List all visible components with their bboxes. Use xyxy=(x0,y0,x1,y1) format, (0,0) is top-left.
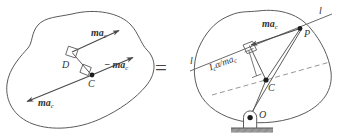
left-segment-d-c xyxy=(73,53,92,75)
right-body-group xyxy=(190,10,332,132)
right-vector-ma-c xyxy=(251,29,300,46)
dashed-axis-through-c xyxy=(212,62,330,95)
equals-operator: = xyxy=(155,58,167,79)
offset-distance-bracket-line xyxy=(249,50,257,76)
segment-c-to-o xyxy=(251,80,266,116)
right-point-p-dot xyxy=(298,26,303,31)
segment-p-to-c xyxy=(266,29,300,80)
pin-support xyxy=(231,111,273,133)
pin-support-pivot-dot xyxy=(247,115,252,120)
left-body-group xyxy=(7,11,154,128)
right-angle-mark-lower xyxy=(80,64,91,75)
right-angle-mark-upper xyxy=(66,46,79,58)
left-body-outline xyxy=(7,11,154,128)
left-vector-right-minus-ma-c xyxy=(92,58,133,76)
right-body-outline xyxy=(194,10,331,122)
left-point-c-dot xyxy=(90,73,95,78)
mechanics-figure xyxy=(0,0,340,137)
right-point-c-dot xyxy=(263,77,268,82)
offset-perpendicular-segment xyxy=(250,46,267,81)
left-vector-top-ma-c xyxy=(72,31,119,53)
figure-canvas: = mac − mac mac D C mac Icα/mac l l P C … xyxy=(0,0,340,137)
line-of-action-l xyxy=(190,14,332,71)
left-vector-left-ma-c xyxy=(27,75,92,102)
ground-bar xyxy=(231,128,273,133)
